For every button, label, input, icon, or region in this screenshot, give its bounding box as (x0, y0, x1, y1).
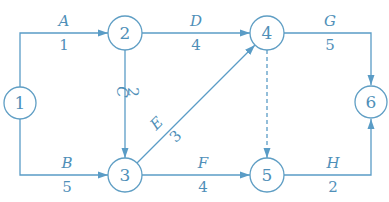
node-6: 6 (355, 86, 387, 118)
label-duration-d: 4 (191, 36, 201, 54)
svg-text:5: 5 (262, 165, 273, 185)
node-3: 3 (108, 158, 142, 192)
label-duration-e: 3 (166, 127, 185, 146)
label-activity-b: B (60, 154, 72, 172)
label-duration-h: 2 (328, 178, 338, 196)
label-duration-b: 5 (62, 178, 72, 196)
svg-text:1: 1 (15, 93, 26, 113)
svg-text:2: 2 (120, 23, 131, 43)
node-5: 5 (250, 158, 284, 192)
node-1: 1 (4, 87, 36, 119)
label-activity-g: G (324, 12, 336, 30)
svg-text:4: 4 (262, 23, 273, 43)
edge-e (137, 45, 255, 163)
label-duration-f: 4 (198, 178, 208, 196)
label-activity-a: A (57, 12, 70, 30)
label-duration-a: 1 (59, 36, 69, 54)
label-activity-e: E (146, 113, 167, 134)
svg-text:3: 3 (120, 165, 131, 185)
network-diagram: A 1 B 5 C 2 D 4 E 3 F 4 G 5 H 2 1 2 3 4 … (0, 0, 389, 202)
label-duration-c: 2 (124, 87, 142, 97)
label-activity-h: H (325, 154, 340, 172)
label-duration-g: 5 (325, 36, 335, 54)
node-2: 2 (108, 16, 142, 50)
label-activity-d: D (189, 12, 202, 30)
label-activity-f: F (197, 154, 209, 172)
node-4: 4 (250, 16, 284, 50)
svg-text:6: 6 (366, 92, 377, 112)
